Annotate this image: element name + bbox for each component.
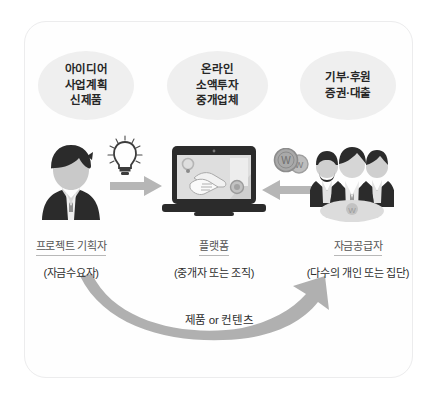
role-planner-name: 프로젝트 기획자	[36, 239, 107, 256]
role-planner-sub: (자금수요자)	[6, 266, 136, 280]
role-platform: 플랫폼 (중개자 또는 조직)	[152, 236, 276, 280]
funding-ellipse: 기부·후원 증권·대출	[300, 51, 396, 120]
arrow-left-icon	[262, 180, 312, 200]
idea-ellipse-line-2: 사업계획	[65, 78, 108, 94]
platform-ellipse: 온라인 소액투자 중개업체	[167, 51, 268, 120]
role-funder-sub: (다수의 개인 또는 집단)	[288, 266, 428, 280]
role-funder-name: 자금공급자	[334, 239, 383, 256]
platform-ellipse-line-1: 온라인	[201, 62, 233, 78]
platform-ellipse-line-3: 중개업체	[196, 93, 239, 109]
role-platform-name: 플랫폼	[199, 239, 228, 256]
group-icon: W	[310, 145, 394, 223]
role-planner: 프로젝트 기획자 (자금수요자)	[6, 236, 136, 280]
person-icon	[38, 142, 104, 222]
idea-ellipse-line-3: 신제품	[70, 93, 102, 109]
role-platform-sub: (중개자 또는 조직)	[152, 266, 276, 280]
role-funder: 자금공급자 (다수의 개인 또는 집단)	[288, 236, 428, 280]
coins-icon: W W	[273, 148, 313, 176]
laptop-icon	[160, 144, 268, 222]
diagram-canvas: 아이디어 사업계획 신제품 온라인 소액투자 중개업체 기부·후원 증권·대출	[0, 0, 438, 407]
idea-ellipse-line-1: 아이디어	[65, 62, 108, 78]
platform-ellipse-line-2: 소액투자	[196, 78, 239, 94]
arrow-right-icon	[110, 176, 162, 196]
lightbulb-icon	[106, 135, 144, 177]
curved-arrow-icon	[78, 272, 350, 346]
funding-ellipse-line-1: 기부·후원	[325, 70, 371, 86]
flow-label: 제품 or 컨텐츠	[139, 311, 299, 327]
svg-text:W: W	[281, 155, 291, 166]
idea-ellipse: 아이디어 사업계획 신제품	[38, 51, 134, 120]
svg-text:W: W	[348, 206, 356, 215]
funding-ellipse-line-2: 증권·대출	[325, 86, 371, 102]
